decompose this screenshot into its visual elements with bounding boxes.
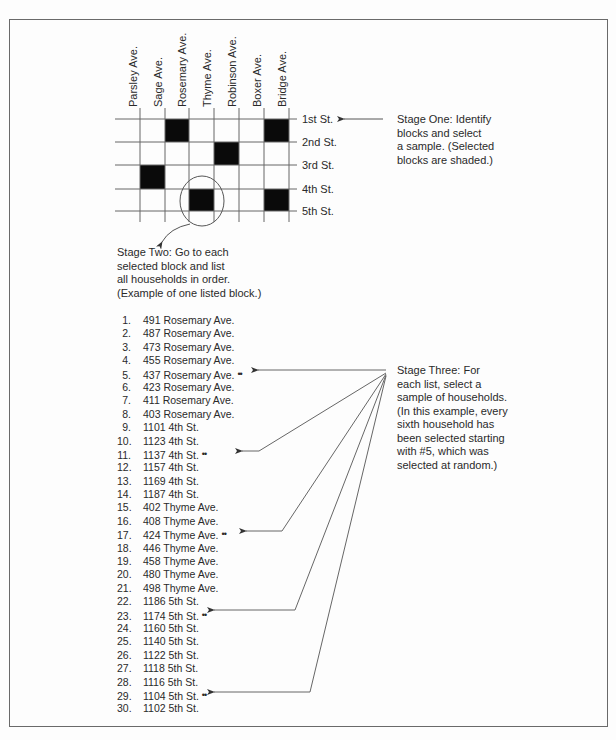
household-row: 9.1101 4th St.	[117, 421, 242, 434]
household-number: 6.	[117, 381, 143, 394]
household-address: 1123 4th St.	[143, 435, 199, 448]
household-address: 1187 4th St.	[143, 488, 199, 501]
stage-two-arrow	[162, 224, 190, 242]
household-row: 11.1137 4th St.••	[117, 448, 242, 461]
stage-three-text: Stage Three: For each list, select a sam…	[397, 364, 508, 472]
household-row: 12.1157 4th St.	[117, 461, 242, 474]
household-number: 16.	[117, 515, 143, 528]
household-number: 3.	[117, 341, 143, 354]
avenue-label: Parsley Ave.	[127, 46, 139, 107]
household-number: 28.	[117, 676, 143, 689]
household-address: 402 Thyme Ave.	[143, 501, 219, 514]
selected-marker: ••	[202, 690, 206, 700]
selected-block	[264, 189, 289, 211]
household-number: 26.	[117, 649, 143, 662]
avenue-label: Boxer Ave.	[251, 54, 263, 107]
selected-block	[264, 119, 289, 142]
household-number: 15.	[117, 501, 143, 514]
household-address: 1118 5th St.	[143, 662, 198, 675]
household-address: 446 Thyme Ave.	[143, 542, 219, 555]
household-address: 1104 5th St.	[143, 690, 199, 703]
household-number: 20.	[117, 568, 143, 581]
household-row: 23.1174 5th St.••	[117, 609, 242, 622]
selected-block	[214, 142, 239, 165]
avenue-label: Sage Ave.	[152, 57, 164, 107]
household-address: 458 Thyme Ave.	[143, 555, 219, 568]
household-number: 25.	[117, 635, 143, 648]
household-row: 8.403 Rosemary Ave.	[117, 408, 242, 421]
household-row: 18.446 Thyme Ave.	[117, 542, 242, 555]
street-label: 4th St.	[302, 183, 334, 195]
household-row: 2.487 Rosemary Ave.	[117, 327, 242, 340]
household-address: 1160 5th St.	[143, 622, 199, 635]
household-number: 7.	[117, 394, 143, 407]
household-number: 13.	[117, 475, 143, 488]
household-number: 1.	[117, 314, 143, 327]
household-row: 7.411 Rosemary Ave.	[117, 394, 242, 407]
household-row: 24.1160 5th St.	[117, 622, 242, 635]
household-row: 27.1118 5th St.	[117, 662, 242, 675]
household-address: 487 Rosemary Ave.	[143, 327, 234, 340]
household-number: 19.	[117, 555, 143, 568]
household-row: 15.402 Thyme Ave.	[117, 501, 242, 514]
household-address: 1102 5th St.	[143, 702, 199, 715]
household-number: 29.	[117, 690, 143, 703]
household-row: 5.437 Rosemary Ave.••	[117, 368, 242, 381]
household-row: 25.1140 5th St.	[117, 635, 242, 648]
street-label: 2nd St.	[302, 136, 337, 148]
household-address: 1137 4th St.	[143, 449, 199, 462]
household-row: 10.1123 4th St.	[117, 435, 242, 448]
street-label: 3rd St.	[302, 159, 334, 171]
household-row: 16.408 Thyme Ave.	[117, 515, 242, 528]
household-address: 1101 4th St.	[143, 421, 199, 434]
stage-one-text: Stage One: Identify blocks and select a …	[397, 113, 494, 167]
selected-marker: ••	[202, 610, 206, 620]
avenue-label: Robinson Ave.	[226, 36, 238, 107]
household-address: 1122 5th St.	[143, 649, 199, 662]
household-row: 28.1116 5th St.	[117, 676, 242, 689]
household-number: 18.	[117, 542, 143, 555]
household-row: 26.1122 5th St.	[117, 649, 242, 662]
household-number: 23.	[117, 610, 143, 623]
household-row: 22.1186 5th St.	[117, 595, 242, 608]
household-address: 491 Rosemary Ave.	[143, 314, 234, 327]
selected-marker: ••	[237, 369, 241, 379]
household-row: 30.1102 5th St.	[117, 702, 242, 715]
selected-block	[165, 119, 189, 142]
avenue-label: Rosemary Ave.	[176, 33, 188, 107]
household-address: 408 Thyme Ave.	[143, 515, 219, 528]
household-row: 17.424 Thyme Ave.••	[117, 528, 242, 541]
household-row: 4.455 Rosemary Ave.	[117, 354, 242, 367]
street-label: 1st St.	[302, 113, 333, 125]
household-row: 1.491 Rosemary Ave.	[117, 314, 242, 327]
avenue-label: Thyme Ave.	[201, 49, 213, 107]
household-number: 17.	[117, 529, 143, 542]
household-number: 9.	[117, 421, 143, 434]
household-address: 455 Rosemary Ave.	[143, 354, 234, 367]
household-row: 29.1104 5th St.••	[117, 689, 242, 702]
selected-marker: ••	[222, 529, 226, 539]
avenue-label: Bridge Ave.	[276, 51, 288, 107]
household-address: 1116 5th St.	[143, 676, 198, 689]
household-address: 1174 5th St.	[143, 610, 199, 623]
household-address: 473 Rosemary Ave.	[143, 341, 234, 354]
household-address: 424 Thyme Ave.	[143, 529, 219, 542]
household-number: 21.	[117, 582, 143, 595]
street-label: 5th St.	[302, 205, 334, 217]
household-address: 1169 4th St.	[143, 475, 199, 488]
stage-two-text: Stage Two: Go to each selected block and…	[117, 246, 261, 300]
household-number: 14.	[117, 488, 143, 501]
household-list: 1.491 Rosemary Ave.2.487 Rosemary Ave.3.…	[117, 314, 242, 716]
household-address: 423 Rosemary Ave.	[143, 381, 234, 394]
household-number: 24.	[117, 622, 143, 635]
household-address: 1157 4th St.	[143, 461, 199, 474]
household-row: 14.1187 4th St.	[117, 488, 242, 501]
household-address: 498 Thyme Ave.	[143, 582, 219, 595]
household-row: 3.473 Rosemary Ave.	[117, 341, 242, 354]
household-number: 8.	[117, 408, 143, 421]
household-row: 21.498 Thyme Ave.	[117, 582, 242, 595]
household-number: 5.	[117, 369, 143, 382]
diagram-lines	[0, 0, 616, 740]
selected-block	[189, 189, 214, 211]
household-address: 403 Rosemary Ave.	[143, 408, 234, 421]
